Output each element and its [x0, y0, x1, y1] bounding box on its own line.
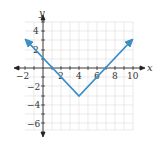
x-axis-label: x — [147, 62, 153, 73]
x-tick-label: 8 — [112, 71, 118, 81]
y-tick-label: 4 — [33, 26, 39, 36]
x-tick-label: 4 — [76, 71, 82, 81]
x-axis-right-arrow-icon — [140, 66, 145, 70]
x-tick-label: 10 — [127, 71, 139, 81]
x-axis-left-arrow-icon — [14, 66, 19, 70]
y-tick-label: −6 — [27, 119, 41, 129]
chart: y x −2 2 4 6 8 10 4 2 −2 −4 −6 — [0, 0, 160, 143]
x-tick-label: −2 — [16, 71, 29, 81]
y-tick-label: −2 — [27, 82, 40, 92]
y-axis-label: y — [38, 7, 45, 18]
y-tick-label: −4 — [27, 100, 41, 110]
y-axis-down-arrow-icon — [41, 132, 45, 137]
